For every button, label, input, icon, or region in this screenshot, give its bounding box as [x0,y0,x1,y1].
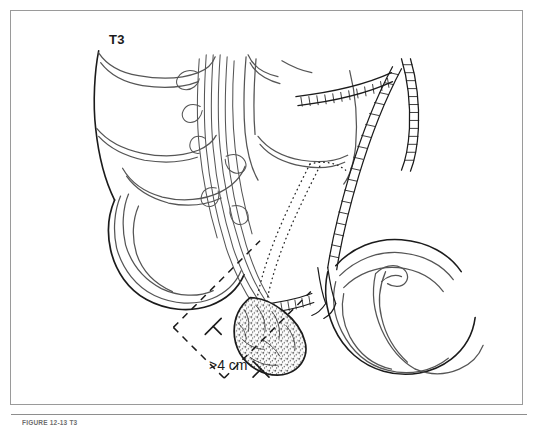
illustration-canvas [11,11,522,404]
figure-caption: FIGURE 12-13 T3 [22,419,482,427]
stage-label: T3 [109,33,125,46]
gallbladder-body [109,166,246,309]
liver-lobe-upper-right [244,55,356,184]
bile-duct-ladder-upper [296,73,393,106]
duodenum [326,240,475,375]
distal-duct-stub [312,268,336,319]
measurement-label: >4 cm [209,358,248,372]
caption-divider [11,414,527,415]
figure-frame: T3 >4 cm [10,10,523,405]
bile-duct-ladder-right [401,59,418,171]
hepatic-vessels [177,55,269,306]
pancreas-head [374,266,484,374]
